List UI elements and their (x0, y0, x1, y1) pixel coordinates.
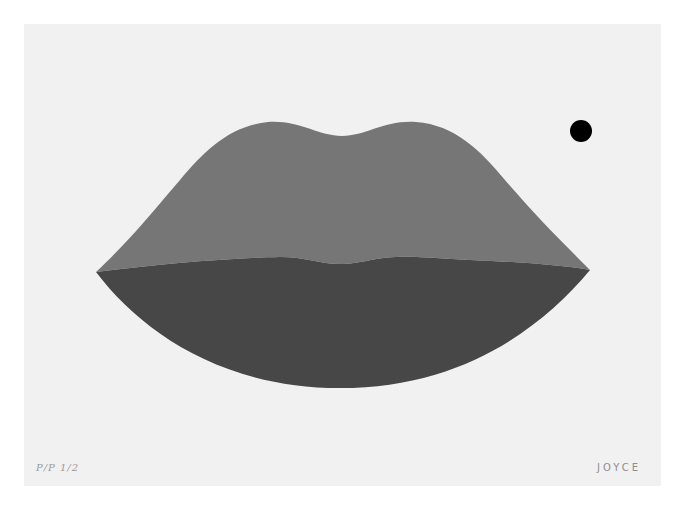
upper-lip (96, 122, 590, 272)
artist-signature: JOYCE (597, 462, 641, 473)
lower-lip (96, 257, 590, 388)
edition-mark: P/P 1/2 (36, 462, 79, 473)
beauty-mark-dot (570, 120, 592, 142)
lips-artwork (0, 0, 681, 509)
